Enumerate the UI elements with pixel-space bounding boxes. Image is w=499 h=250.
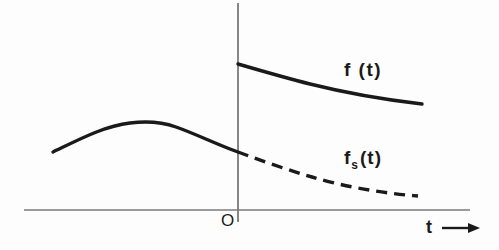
curve-fs-of-t-solid <box>53 122 238 152</box>
x-axis-label: t <box>426 218 432 236</box>
curve-fs-of-t-dashed <box>238 152 418 196</box>
curve-label-fs-subscript: s <box>351 158 360 172</box>
origin-label: O <box>221 212 234 229</box>
plot-canvas <box>0 0 499 250</box>
figure-container: f (t) fs(t) O t <box>0 0 499 250</box>
curve-label-fs-of-t: fs(t) <box>344 148 382 171</box>
curve-label-f-of-t: f (t) <box>344 60 382 79</box>
curve-f-of-t <box>238 64 422 104</box>
curve-label-fs-suffix: (t) <box>360 147 382 168</box>
x-axis-label-text: t <box>426 217 432 237</box>
t-axis-arrow-icon <box>442 223 480 233</box>
